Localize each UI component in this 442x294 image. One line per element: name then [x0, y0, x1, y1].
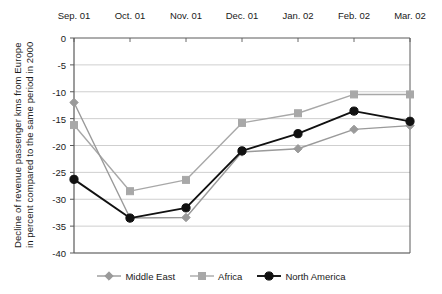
data-point-circle — [265, 272, 273, 280]
plot-area — [0, 0, 442, 294]
data-point-circle — [294, 130, 302, 138]
legend-item-africa[interactable]: Africa — [189, 270, 242, 282]
data-point-circle — [406, 117, 414, 125]
data-point-square — [71, 122, 78, 129]
data-point-circle — [126, 214, 134, 222]
legend-marker-diamond-icon — [96, 270, 122, 282]
chart-legend: Middle EastAfricaNorth America — [0, 266, 442, 286]
legend-label: North America — [285, 271, 345, 282]
legend-label: Africa — [218, 271, 242, 282]
data-point-square — [183, 176, 190, 183]
data-point-square — [127, 188, 134, 195]
data-point-diamond — [105, 272, 113, 280]
data-point-circle — [238, 147, 246, 155]
legend-marker-square-icon — [189, 270, 215, 282]
legend-item-middle-east[interactable]: Middle East — [96, 270, 175, 282]
data-point-square — [295, 110, 302, 117]
data-point-square — [239, 119, 246, 126]
data-point-square — [199, 273, 206, 280]
data-point-square — [351, 91, 358, 98]
legend-label: Middle East — [125, 271, 175, 282]
legend-item-north-america[interactable]: North America — [256, 270, 345, 282]
legend-marker-circle-icon — [256, 270, 282, 282]
data-point-circle — [182, 204, 190, 212]
data-point-circle — [70, 175, 78, 183]
line-chart: Decline of revenue passenger kms from Eu… — [0, 0, 442, 294]
data-point-circle — [350, 107, 358, 115]
data-point-square — [407, 91, 414, 98]
